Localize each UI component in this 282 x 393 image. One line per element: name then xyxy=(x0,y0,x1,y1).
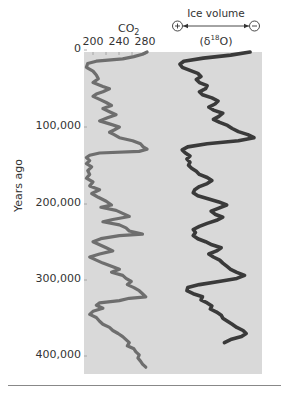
minus-circle-icon xyxy=(250,21,260,31)
x-tick-label: 240 xyxy=(109,36,130,48)
d18o-axis-title: (δ18O) xyxy=(180,34,252,48)
co2-title-subscript: 2 xyxy=(134,28,139,37)
ice-volume-title: Ice volume xyxy=(172,7,260,19)
y-tick-label: 200,000 xyxy=(36,197,82,209)
x-tick-label: 280 xyxy=(135,36,156,48)
y-tick-label: 400,000 xyxy=(36,349,82,361)
d18o-suffix: O) xyxy=(220,35,233,48)
y-tick-label: 300,000 xyxy=(36,273,82,285)
ice-volume-arrow xyxy=(183,24,249,28)
y-axis-title: Years ago xyxy=(12,159,25,212)
y-tick-label: 100,000 xyxy=(36,120,82,132)
co2-axis-title: CO2 xyxy=(118,22,139,37)
divider-line xyxy=(8,385,281,386)
d18o-prefix: (δ xyxy=(200,35,211,48)
x-tick-label: 200 xyxy=(83,36,104,48)
co2-title-text: CO xyxy=(118,22,134,35)
plus-circle-icon xyxy=(173,21,183,31)
ice-volume-series-line xyxy=(180,52,254,343)
y-tick-label: 0 xyxy=(74,43,81,55)
d18o-superscript: 18 xyxy=(211,34,220,42)
co2-series-line xyxy=(86,52,147,367)
